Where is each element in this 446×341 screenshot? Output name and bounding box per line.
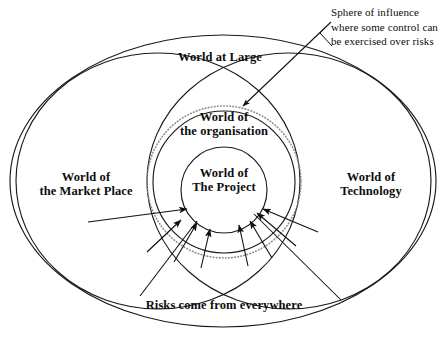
diagram-canvas: World at Large World of the organisation… <box>0 0 446 341</box>
risk-arrow <box>263 209 318 232</box>
label-sphere-of-influence: Sphere of influence where some control c… <box>331 5 445 49</box>
label-world-of-organisation: World of the organisation <box>160 110 288 138</box>
risks-callout-leader-right <box>254 214 341 300</box>
label-risks-come-from-everywhere: Risks come from everywhere <box>120 298 328 312</box>
label-world-of-project: World of The Project <box>170 166 278 194</box>
risk-arrow <box>201 229 210 268</box>
label-world-at-large: World at Large <box>155 50 285 64</box>
risk-arrows-group <box>88 209 318 268</box>
risk-arrow <box>239 225 248 266</box>
risk-arrow <box>88 209 187 222</box>
label-world-of-technology: World of Technology <box>318 170 424 198</box>
risk-arrow <box>147 220 181 252</box>
sphere-of-influence-leader <box>243 22 331 106</box>
label-world-of-market-place: World of the Market Place <box>22 170 150 198</box>
